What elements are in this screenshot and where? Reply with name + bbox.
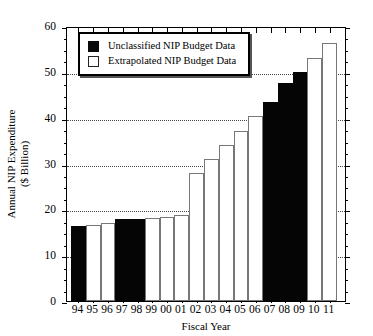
bar-08: [278, 83, 293, 301]
bar-94: [71, 226, 86, 301]
y-tick-left: [64, 154, 67, 155]
y-tick-right: [345, 120, 350, 121]
x-ticklabel-01: 01: [175, 304, 187, 316]
legend: Unclassified NIP Budget Data Extrapolate…: [78, 32, 250, 76]
x-ticklabel-08: 08: [279, 304, 291, 316]
y-ticklabel-10: 10: [45, 250, 57, 262]
y-tick-left: [64, 108, 67, 109]
x-tick-top-08: [285, 28, 286, 33]
bar-chart-figure: 0102030405060 Annual NIP Expenditure ($ …: [0, 0, 373, 336]
bar-06: [248, 116, 263, 301]
y-tick-left: [62, 28, 67, 29]
bar-07: [263, 102, 278, 301]
y-ticklabel-20: 20: [45, 205, 57, 217]
legend-label-unclassified: Unclassified NIP Budget Data: [108, 41, 235, 52]
bar-02: [189, 173, 204, 301]
legend-swatch-unclassified-icon: [88, 41, 99, 52]
x-ticklabel-96: 96: [101, 304, 113, 316]
legend-item-unclassified: Unclassified NIP Budget Data: [88, 39, 236, 54]
y-tick-left: [62, 120, 67, 121]
y-axis-title: Annual NIP Expenditure ($ Billion): [5, 89, 30, 239]
y-tick-right: [345, 177, 348, 178]
y-tick-left: [62, 211, 67, 212]
y-tick-left: [64, 97, 67, 98]
x-tick-top-10: [315, 28, 316, 33]
y-tick-right: [345, 257, 350, 258]
y-tick-right: [345, 246, 348, 247]
bar-98: [130, 219, 145, 301]
y-tick-right: [345, 234, 348, 235]
y-tick-left: [64, 188, 67, 189]
x-ticklabel-03: 03: [205, 304, 217, 316]
y-tick-left: [64, 200, 67, 201]
legend-item-extrapolated: Extrapolated NIP Budget Data: [88, 54, 236, 69]
plot-area: Unclassified NIP Budget Data Extrapolate…: [66, 27, 346, 302]
bar-96: [101, 223, 116, 301]
x-tick-top-06: [256, 28, 257, 33]
y-tick-right: [345, 188, 348, 189]
x-axis-title: Fiscal Year: [66, 320, 346, 332]
y-tick-right: [345, 200, 348, 201]
bar-03: [204, 159, 219, 301]
y-tick-left: [64, 143, 67, 144]
y-ticklabel-0: 0: [50, 296, 56, 308]
y-ticklabel-60: 60: [45, 21, 57, 33]
y-tick-right: [345, 166, 350, 167]
y-tick-left: [64, 223, 67, 224]
y-tick-left: [64, 280, 67, 281]
y-tick-left: [64, 246, 67, 247]
y-tick-left: [64, 62, 67, 63]
bar-97: [115, 219, 130, 301]
y-axis-title-line1: Annual NIP Expenditure: [5, 89, 18, 239]
y-tick-right: [345, 154, 348, 155]
x-ticklabel-09: 09: [293, 304, 305, 316]
x-ticklabel-00: 00: [160, 304, 172, 316]
y-tick-left: [62, 257, 67, 258]
y-tick-right: [345, 108, 348, 109]
x-ticklabel-05: 05: [234, 304, 246, 316]
bar-04: [219, 145, 234, 301]
x-tick-top-09: [300, 28, 301, 33]
y-tick-right: [345, 62, 348, 63]
bar-95: [86, 225, 101, 301]
x-axis-ticklabels: 949596979899000102030405060708091011: [66, 304, 346, 320]
x-ticklabel-99: 99: [146, 304, 158, 316]
y-tick-right: [345, 97, 348, 98]
bar-00: [160, 217, 175, 301]
x-ticklabel-04: 04: [219, 304, 231, 316]
y-tick-left: [64, 292, 67, 293]
y-tick-right: [345, 211, 350, 212]
y-tick-left: [62, 166, 67, 167]
x-ticklabel-98: 98: [131, 304, 143, 316]
bar-01: [174, 215, 189, 301]
y-tick-right: [345, 51, 348, 52]
y-tick-left: [64, 177, 67, 178]
y-tick-left: [64, 39, 67, 40]
legend-label-extrapolated: Extrapolated NIP Budget Data: [108, 56, 236, 67]
y-tick-left: [64, 131, 67, 132]
bar-05: [234, 131, 249, 302]
y-tick-left: [64, 234, 67, 235]
x-tick-top-11: [330, 28, 331, 33]
y-ticklabel-50: 50: [45, 67, 57, 79]
x-ticklabel-94: 94: [72, 304, 84, 316]
bar-09: [293, 72, 308, 301]
y-tick-left: [64, 85, 67, 86]
y-ticklabel-30: 30: [45, 159, 57, 171]
y-axis-title-line2: ($ Billion): [17, 89, 30, 239]
y-tick-left: [64, 269, 67, 270]
x-ticklabel-02: 02: [190, 304, 202, 316]
bar-99: [145, 218, 160, 301]
x-ticklabel-10: 10: [308, 304, 320, 316]
y-ticklabel-40: 40: [45, 113, 57, 125]
y-tick-right: [345, 292, 348, 293]
x-ticklabel-95: 95: [86, 304, 98, 316]
bar-11: [322, 43, 337, 301]
y-tick-right: [345, 28, 350, 29]
x-ticklabel-06: 06: [249, 304, 261, 316]
x-ticklabel-11: 11: [323, 304, 334, 316]
x-ticklabel-97: 97: [116, 304, 128, 316]
y-tick-right: [345, 85, 348, 86]
y-tick-left: [62, 74, 67, 75]
y-tick-right: [345, 39, 348, 40]
